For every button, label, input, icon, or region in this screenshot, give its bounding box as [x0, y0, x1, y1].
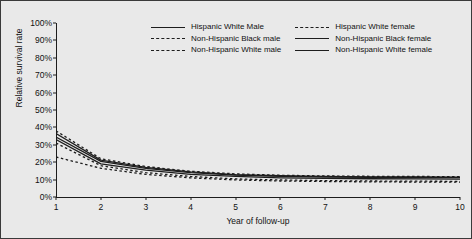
legend-item-label: Hispanic White female	[335, 23, 415, 31]
legend-line-swatch-icon	[151, 24, 185, 31]
legend-item[interactable]: Non-Hispanic Black male	[151, 35, 281, 43]
legend-item-label: Non-Hispanic White female	[335, 46, 432, 54]
legend-item[interactable]: Non-Hispanic White female	[295, 46, 432, 54]
series-line	[56, 137, 460, 178]
x-tick-mark	[235, 197, 236, 200]
relative-survival-chart: Relative survival rate Year of follow-up…	[0, 0, 472, 239]
y-axis-title: Relative survival rate	[14, 0, 24, 138]
legend-item-label: Hispanic White Male	[191, 23, 264, 31]
x-tick-mark	[460, 197, 461, 200]
x-tick-mark	[145, 197, 146, 200]
legend-item[interactable]: Hispanic White Male	[151, 23, 281, 31]
x-axis-title: Year of follow-up	[56, 216, 460, 226]
legend-column: Hispanic White femaleNon-Hispanic Black …	[295, 23, 432, 54]
legend-line-swatch-icon	[151, 47, 185, 54]
legend-line-swatch-icon	[295, 35, 329, 42]
x-tick-mark	[190, 197, 191, 200]
series-line	[56, 140, 460, 180]
legend-line-swatch-icon	[295, 47, 329, 54]
legend-item[interactable]: Non-Hispanic Black female	[295, 35, 432, 43]
chart-legend: Hispanic White MaleNon-Hispanic Black ma…	[151, 23, 463, 54]
x-tick-mark	[100, 197, 101, 200]
legend-item-label: Non-Hispanic Black male	[191, 35, 280, 43]
x-axis-line	[56, 197, 460, 198]
x-tick-mark	[370, 197, 371, 200]
legend-line-swatch-icon	[295, 24, 329, 31]
legend-item-label: Non-Hispanic Black female	[335, 35, 431, 43]
legend-item[interactable]: Non-Hispanic White male	[151, 46, 281, 54]
legend-column: Hispanic White MaleNon-Hispanic Black ma…	[151, 23, 281, 54]
legend-line-swatch-icon	[151, 35, 185, 42]
x-tick-mark	[56, 197, 57, 200]
x-tick-mark	[280, 197, 281, 200]
x-tick-mark	[325, 197, 326, 200]
legend-item-label: Non-Hispanic White male	[191, 46, 281, 54]
x-tick-mark	[415, 197, 416, 200]
legend-item[interactable]: Hispanic White female	[295, 23, 432, 31]
